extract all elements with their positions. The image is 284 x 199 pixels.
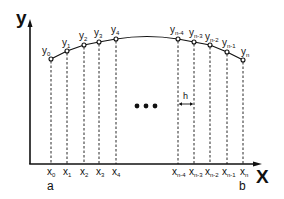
node-marker (82, 43, 86, 47)
ellipsis-dots-icon (135, 104, 158, 109)
y-label-n-4: yn-4 (170, 25, 184, 36)
ordinate-lines (51, 41, 243, 164)
endpoint-a-label: a (47, 180, 54, 192)
y-label-n-2: yn-2 (205, 32, 219, 43)
node-marker (65, 49, 69, 53)
x-label-2: x2 (80, 167, 88, 178)
y-label-4: y4 (111, 25, 119, 36)
y-label-n-1: yn-1 (222, 38, 236, 49)
endpoint-b-label: b (239, 180, 246, 192)
node-marker (49, 57, 53, 61)
x-label-3: x3 (96, 167, 104, 178)
y-label-0: y0 (42, 46, 50, 57)
node-marker (241, 58, 245, 62)
y-label-2: y2 (79, 31, 87, 42)
x-axis-title: X (256, 167, 269, 186)
node-marker (176, 37, 180, 41)
x-label-1: x1 (63, 167, 71, 178)
step-width-arrow-icon (179, 102, 194, 105)
node-marker (208, 43, 212, 47)
x-label-0: x0 (47, 167, 55, 178)
x-label-4: x4 (112, 167, 120, 178)
node-marker (225, 50, 229, 54)
node-marker (192, 40, 196, 44)
x-label-n: xn (240, 167, 248, 178)
step-width-label: h (183, 92, 188, 101)
x-label-n-3: xn-3 (189, 167, 203, 178)
y-axis-title: y (16, 8, 27, 27)
x-label-n-1: xn-1 (222, 167, 236, 178)
node-marker (97, 40, 101, 44)
x-label-n-4: xn-4 (172, 167, 186, 178)
x-label-n-2: xn-2 (205, 167, 219, 178)
y-label-n-3: yn-3 (189, 28, 203, 39)
y-label-3: y3 (94, 28, 102, 39)
y-label-1: y1 (62, 38, 70, 49)
node-marker (114, 37, 118, 41)
y-label-n: yn (241, 47, 249, 58)
y-axis-arrow-icon (28, 19, 33, 27)
